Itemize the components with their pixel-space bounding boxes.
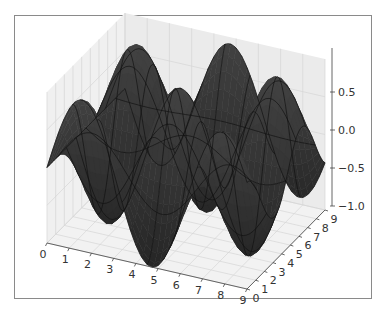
y-tick-label: 2 (270, 274, 277, 287)
y-tick-label: 6 (305, 239, 312, 252)
y-tick-label: 0 (253, 292, 260, 305)
surface-plot-3d: 0123456789 0123456789 −1.0−0.50.00.5 (0, 0, 389, 316)
x-tick-label: 3 (106, 263, 113, 276)
y-tick-label: 1 (261, 283, 268, 296)
x-tick-label: 7 (195, 284, 202, 297)
x-tick-label: 6 (173, 279, 180, 292)
y-tick-label: 4 (287, 257, 294, 270)
z-tick-label: −1.0 (338, 200, 365, 213)
y-tick-label: 3 (279, 266, 286, 279)
y-tick-label: 5 (296, 248, 303, 261)
z-tick-label: −0.5 (338, 162, 365, 175)
y-tick-label: 7 (313, 231, 320, 244)
x-tick-label: 8 (217, 289, 224, 302)
y-tick-label: 8 (322, 222, 329, 235)
z-axis-ticks: −1.0−0.50.00.5 (330, 86, 365, 213)
x-tick-label: 4 (128, 268, 135, 281)
x-tick-label: 1 (62, 253, 69, 266)
x-tick-label: 0 (40, 248, 47, 261)
x-tick-label: 5 (151, 274, 158, 287)
x-tick-label: 9 (240, 294, 247, 307)
x-tick-label: 2 (84, 258, 91, 271)
figure: 0123456789 0123456789 −1.0−0.50.00.5 (0, 0, 389, 316)
y-tick-label: 9 (331, 213, 338, 226)
z-tick-label: 0.0 (338, 124, 356, 137)
z-tick-label: 0.5 (338, 86, 356, 99)
